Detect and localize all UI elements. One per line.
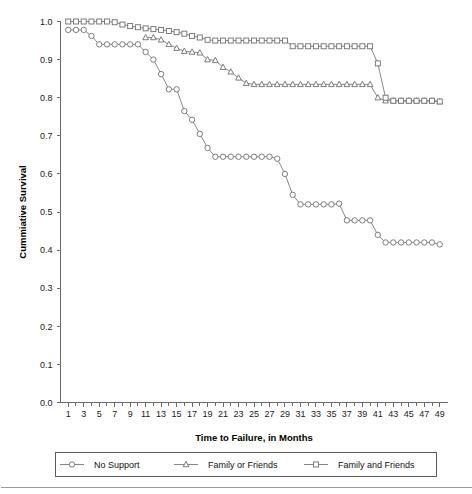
x-tick-label: 15 [172, 409, 182, 419]
x-tick-label: 7 [112, 409, 117, 419]
square-marker [290, 44, 295, 49]
circle-marker [228, 154, 233, 159]
circle-marker [251, 154, 256, 159]
square-marker [89, 19, 94, 24]
y-axis-ticks: 0.00.10.20.30.40.50.60.70.80.91.0 [40, 17, 61, 408]
square-marker [314, 462, 319, 467]
square-marker [282, 38, 287, 43]
circle-marker [69, 462, 74, 467]
circle-marker [298, 202, 303, 207]
square-marker [252, 38, 257, 43]
circle-marker [205, 145, 210, 150]
triangle-marker [228, 69, 234, 74]
triangle-marker [174, 45, 180, 50]
circle-marker [406, 240, 411, 245]
circle-marker [282, 171, 287, 176]
x-tick-label: 27 [264, 409, 274, 419]
kaplan-meier-chart: 0.00.10.20.30.40.50.60.70.80.91.0 135791… [0, 0, 472, 494]
circle-marker [375, 232, 380, 237]
square-marker [213, 38, 218, 43]
circle-marker [313, 202, 318, 207]
triangle-marker [243, 80, 249, 85]
y-tick-label: 0.7 [40, 131, 53, 141]
square-marker [174, 30, 179, 35]
circle-marker [135, 42, 140, 47]
circle-marker [97, 42, 102, 47]
circle-marker [305, 202, 310, 207]
x-tick-label: 25 [249, 409, 259, 419]
circle-marker [189, 117, 194, 122]
square-marker [406, 98, 411, 103]
circle-marker [174, 87, 179, 92]
square-marker [228, 38, 233, 43]
plot-area [61, 22, 448, 403]
square-marker [236, 38, 241, 43]
circle-marker [321, 202, 326, 207]
square-marker [135, 25, 140, 30]
square-marker [430, 98, 435, 103]
circle-marker [143, 49, 148, 54]
circle-marker [166, 87, 171, 92]
square-marker [259, 38, 264, 43]
x-tick-label: 35 [326, 409, 336, 419]
legend-label: No Support [94, 460, 140, 470]
square-marker [298, 44, 303, 49]
triangle-marker [236, 75, 242, 80]
square-marker [360, 44, 365, 49]
square-marker [81, 19, 86, 24]
square-marker [375, 61, 380, 66]
y-axis-title: Cummiative Survival [17, 165, 28, 258]
circle-marker [437, 242, 442, 247]
x-tick-label: 3 [81, 409, 86, 419]
x-tick-label: 41 [373, 409, 383, 419]
square-marker [437, 99, 442, 104]
circle-marker [182, 108, 187, 113]
x-tick-label: 13 [156, 409, 166, 419]
legend-entries: No SupportFamily or FriendsFamily and Fr… [60, 460, 415, 470]
square-marker [275, 38, 280, 43]
square-marker [120, 22, 125, 27]
x-tick-label: 37 [342, 409, 352, 419]
square-marker [221, 38, 226, 43]
y-tick-label: 0.1 [40, 360, 53, 370]
circle-marker [344, 218, 349, 223]
square-marker [313, 44, 318, 49]
x-tick-label: 5 [97, 409, 102, 419]
legend-label: Family and Friends [338, 460, 415, 470]
circle-marker [391, 240, 396, 245]
y-tick-label: 0.4 [40, 245, 53, 255]
square-marker [337, 44, 342, 49]
y-tick-label: 0.9 [40, 55, 53, 65]
x-tick-label: 17 [187, 409, 197, 419]
circle-marker [197, 131, 202, 136]
square-marker [306, 44, 311, 49]
circle-marker [151, 57, 156, 62]
circle-marker [383, 240, 388, 245]
x-axis-ticks: 1357911131517192123252729313335373941434… [66, 403, 445, 419]
x-tick-label: 49 [435, 409, 445, 419]
circle-marker [290, 192, 295, 197]
square-marker [97, 19, 102, 24]
x-tick-label: 39 [357, 409, 367, 419]
circle-marker [244, 154, 249, 159]
circle-marker [220, 154, 225, 159]
triangle-marker [166, 41, 172, 46]
x-tick-label: 23 [234, 409, 244, 419]
y-tick-label: 0.5 [40, 207, 53, 217]
x-tick-label: 11 [141, 409, 150, 419]
circle-marker [81, 27, 86, 32]
circle-marker [120, 42, 125, 47]
y-tick-label: 0.2 [40, 322, 53, 332]
x-tick-label: 19 [203, 409, 213, 419]
circle-marker [236, 154, 241, 159]
series-line [68, 30, 440, 245]
square-marker [182, 31, 187, 36]
square-marker [166, 29, 171, 34]
survival-chart-figure: 0.00.10.20.30.40.50.60.70.80.91.0 135791… [0, 0, 472, 494]
square-marker [128, 24, 133, 29]
square-marker [422, 98, 427, 103]
circle-marker [329, 202, 334, 207]
x-tick-label: 33 [311, 409, 321, 419]
square-marker [383, 95, 388, 100]
circle-marker [414, 240, 419, 245]
